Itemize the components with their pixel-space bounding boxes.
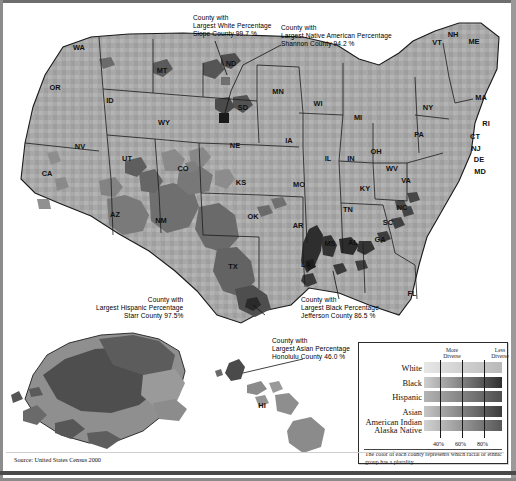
state-label-al: AL — [348, 238, 358, 247]
callout-largest-native-american-percentage: County with Largest Native American Perc… — [281, 24, 392, 47]
state-label-fl: FL — [407, 289, 416, 298]
callout-white-line2: Largest White Percentage — [193, 22, 272, 30]
state-label-az: AZ — [110, 210, 120, 219]
legend-label-hispanic: Hispanic — [344, 391, 422, 404]
callout-largest-hispanic-percentage: County with Largest Hispanic Percentage … — [96, 296, 183, 319]
callout-hispanic-line2: Largest Hispanic Percentage — [96, 304, 183, 312]
legend-tick-40 — [440, 360, 441, 438]
callout-largest-white-percentage: County with Largest White Percentage Slo… — [193, 14, 272, 37]
state-label-hi: HI — [258, 401, 265, 410]
state-label-sc: SC — [383, 218, 393, 227]
state-label-ga: GA — [374, 235, 385, 244]
callout-largest-black-percentage: County with Largest Black Percentage Jef… — [301, 296, 379, 319]
legend-more-diverse-label: MoreDiverse — [426, 347, 452, 353]
figure-frame-right — [511, 0, 516, 481]
legend-note: The color of each county represents whic… — [365, 451, 502, 467]
legend-diversity-headers: MoreDiverse LessDiverse — [424, 347, 502, 361]
state-label-il: IL — [325, 154, 332, 163]
state-label-nm: NM — [155, 216, 167, 225]
callout-black-line1: County with — [301, 296, 379, 304]
legend-label-american-indian: American IndianAlaska Native — [344, 419, 422, 436]
state-label-oh: OH — [370, 147, 381, 156]
state-label-nh: NH — [448, 30, 459, 39]
state-label-nv: NV — [75, 142, 85, 151]
state-label-sd: SD — [238, 103, 248, 112]
legend-scale-60: 60% — [455, 441, 466, 447]
source-line: Source: United States Census 2000 — [14, 456, 101, 463]
state-label-nd: ND — [226, 59, 237, 68]
state-label-ky: KY — [360, 184, 370, 193]
state-label-ma: MA — [475, 93, 487, 102]
callout-native-line2: Largest Native American Percentage — [281, 32, 392, 40]
legend-scale-40: 40% — [433, 441, 444, 447]
state-label-in: IN — [347, 154, 354, 163]
legend-label-asian: Asian — [344, 406, 422, 419]
callout-asian-line3: Honolulu County 46.0 % — [272, 353, 350, 361]
state-label-ok: OK — [247, 212, 258, 221]
legend-tick-rules — [424, 360, 502, 440]
legend-label-white: White — [344, 362, 422, 375]
callout-asian-line1: County with — [272, 337, 350, 345]
state-label-ms: MS — [324, 239, 335, 248]
state-label-mo: MO — [293, 180, 305, 189]
callout-largest-asian-percentage: County with Largest Asian Percentage Hon… — [272, 337, 350, 360]
state-label-mi: MI — [354, 113, 362, 122]
state-label-id: ID — [106, 96, 113, 105]
state-label-ca: CA — [42, 169, 53, 178]
state-label-or: OR — [49, 83, 60, 92]
state-label-vt: VT — [432, 38, 441, 47]
state-label-tn: TN — [343, 205, 353, 214]
state-label-de: DE — [474, 155, 484, 164]
state-label-me: ME — [468, 37, 479, 46]
state-label-mt: MT — [157, 66, 168, 75]
state-label-ks: KS — [236, 178, 246, 187]
callout-native-line3: Shannon County 94.2 % — [281, 40, 392, 48]
state-label-wv: WV — [386, 164, 398, 173]
callout-black-line2: Largest Black Percentage — [301, 304, 379, 312]
callout-hispanic-line3: Starr County 97.5% — [96, 312, 183, 320]
source-divider — [6, 452, 504, 453]
callout-hispanic-line1: County with — [96, 296, 183, 304]
state-label-wi: WI — [313, 99, 322, 108]
state-label-va: VA — [401, 176, 411, 185]
state-label-ne: NE — [230, 141, 240, 150]
legend-scale-80: 80% — [477, 441, 488, 447]
state-label-mn: MN — [272, 87, 284, 96]
legend-inner: MoreDiverse LessDiverse WhiteBlackHispan… — [362, 346, 504, 460]
callout-asian-line2: Largest Asian Percentage — [272, 345, 350, 353]
legend-tick-80 — [484, 360, 485, 438]
map-legend: MoreDiverse LessDiverse WhiteBlackHispan… — [358, 342, 508, 464]
state-label-wa: WA — [73, 43, 85, 52]
state-label-wy: WY — [158, 118, 170, 127]
state-label-nc: NC — [397, 203, 408, 212]
callout-black-line3: Jefferson County 86.5 % — [301, 312, 379, 320]
state-label-la: LA — [301, 260, 311, 269]
state-label-ri: RI — [482, 119, 489, 128]
state-label-ut: UT — [122, 154, 132, 163]
callout-white-line1: County with — [193, 14, 272, 22]
legend-tick-60 — [462, 360, 463, 438]
callout-native-line1: County with — [281, 24, 392, 32]
state-label-co: CO — [177, 164, 188, 173]
legend-label-black: Black — [344, 377, 422, 390]
state-label-md: MD — [474, 167, 486, 176]
figure-frame-bottom — [0, 471, 516, 475]
state-label-nj: NJ — [471, 144, 480, 153]
legend-less-diverse-label: LessDiverse — [474, 347, 500, 353]
state-label-ar: AR — [293, 221, 304, 230]
state-label-tx: TX — [228, 262, 237, 271]
us-racial-plurality-map-figure: WAORCANVIDMTWYUTAZNMCONDSDNEKSOKTXMNIAMO… — [0, 0, 516, 481]
state-label-ny: NY — [423, 103, 433, 112]
state-label-ct: CT — [470, 132, 480, 141]
legend-divider — [364, 449, 502, 450]
callout-white-line3: Slope County 99.7 % — [193, 30, 272, 38]
state-label-ia: IA — [285, 136, 292, 145]
state-label-pa: PA — [414, 130, 424, 139]
